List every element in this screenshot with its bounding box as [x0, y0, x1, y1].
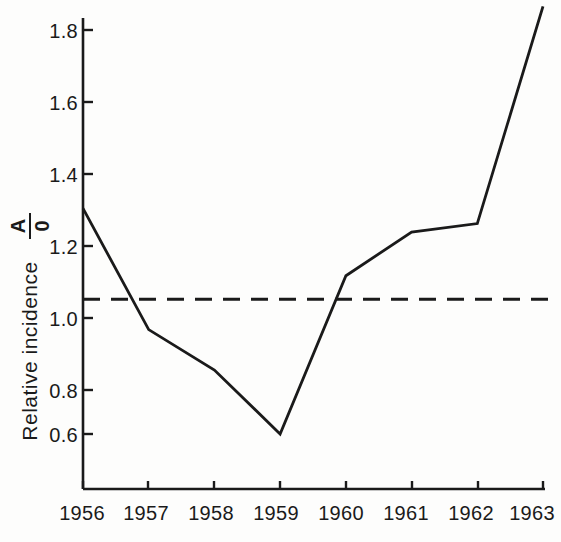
- plot-area: [0, 0, 561, 542]
- chart-figure: Relative incidence A 0 1.8 1.6 1.4 1.2 1…: [0, 0, 561, 542]
- y-axis-ticks: [83, 30, 93, 434]
- data-series-line: [83, 6, 543, 434]
